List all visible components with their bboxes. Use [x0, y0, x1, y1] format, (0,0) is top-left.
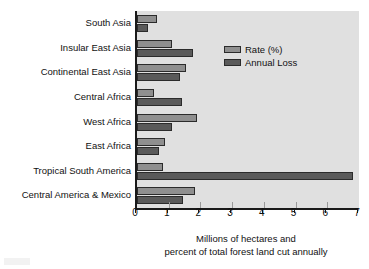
category-label-tropical-south-america: Tropical South America: [0, 165, 131, 176]
bar-rate: [137, 138, 165, 146]
category-label-south-asia: South Asia: [0, 17, 131, 28]
bar-rate: [137, 187, 195, 195]
x-axis-title-line-1: Millions of hectares and: [135, 233, 357, 246]
bar-rate: [137, 89, 154, 97]
legend-item-annual-loss: Annual Loss: [224, 56, 297, 68]
x-tick-label-7: 7: [347, 207, 367, 218]
bar-group: [137, 110, 359, 135]
x-tick-label-1: 1: [157, 207, 177, 218]
category-label-insular-east-asia: Insular East Asia: [0, 42, 131, 53]
x-tick-label-3: 3: [220, 207, 240, 218]
legend-item-rate: Rate (%): [224, 43, 297, 55]
x-tick-label-5: 5: [284, 207, 304, 218]
x-tick-label-0: 0: [125, 207, 145, 218]
bar-annual-loss: [137, 98, 182, 106]
bar-rate: [137, 114, 197, 122]
x-tick-label-2: 2: [188, 207, 208, 218]
bar-annual-loss: [137, 49, 193, 57]
chart-legend: Rate (%) Annual Loss: [224, 43, 297, 69]
bar-rate: [137, 15, 157, 23]
bar-group: [137, 11, 359, 36]
legend-swatch-rate-icon: [224, 46, 241, 53]
legend-swatch-annual-loss-icon: [224, 59, 241, 66]
bar-rate: [137, 163, 163, 171]
category-label-west-africa: West Africa: [0, 116, 131, 127]
legend-label-annual-loss: Annual Loss: [245, 57, 297, 68]
category-label-central-africa: Central Africa: [0, 91, 131, 102]
category-label-continental-east-asia: Continental East Asia: [0, 66, 131, 77]
caption-stub: [4, 258, 30, 265]
category-axis-labels: South Asia Insular East Asia Continental…: [0, 11, 131, 208]
bar-annual-loss: [137, 172, 353, 180]
bar-rate: [137, 40, 172, 48]
bar-annual-loss: [137, 24, 148, 32]
bar-annual-loss: [137, 147, 159, 155]
legend-label-rate: Rate (%): [245, 44, 282, 55]
bar-group: [137, 183, 359, 208]
bar-annual-loss: [137, 196, 183, 204]
category-label-east-africa: East Africa: [0, 140, 131, 151]
category-label-central-america-mexico: Central America & Mexico: [0, 189, 131, 200]
x-tick-label-4: 4: [252, 207, 272, 218]
bar-annual-loss: [137, 73, 180, 81]
bar-group: [137, 85, 359, 110]
bar-group: [137, 159, 359, 184]
bar-annual-loss: [137, 123, 172, 131]
x-axis-title: Millions of hectares and percent of tota…: [135, 233, 357, 258]
bar-group: [137, 134, 359, 159]
bar-rate: [137, 64, 186, 72]
bar-rows: [137, 11, 359, 208]
plot-area: Rate (%) Annual Loss: [135, 11, 359, 208]
x-tick-label-6: 6: [315, 207, 335, 218]
forest-loss-bar-chart: South Asia Insular East Asia Continental…: [0, 0, 369, 269]
x-axis-title-line-2: percent of total forest land cut annuall…: [135, 246, 357, 259]
